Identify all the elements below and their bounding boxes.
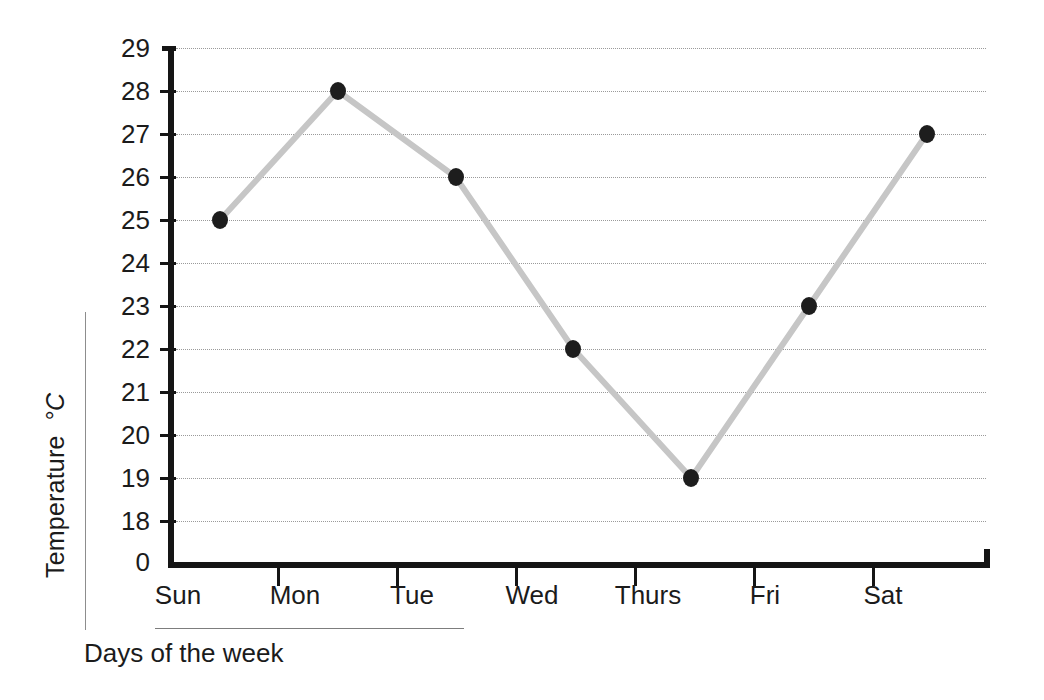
- gridline-25: [176, 220, 986, 221]
- y-tick-label-29: 29: [104, 35, 150, 61]
- y-tick-label-23: 23: [104, 293, 150, 319]
- x-tick-label-mon: Mon: [255, 582, 335, 608]
- data-point-sun: [212, 211, 228, 229]
- gridline-20: [176, 435, 986, 436]
- data-point-mon: [330, 82, 346, 100]
- y-axis-title-text: Temperature: [41, 435, 69, 578]
- gridline-26: [176, 177, 986, 178]
- x-axis-end-cap: [984, 549, 990, 568]
- y-tick-label-22: 22: [104, 336, 150, 362]
- gridline-21: [176, 392, 986, 393]
- y-tick-label-0: 0: [104, 549, 150, 575]
- x-tick-label-wed: Wed: [492, 582, 572, 608]
- x-axis-line: [168, 562, 990, 568]
- y-tick-label-28: 28: [104, 78, 150, 104]
- data-point-thurs: [683, 469, 699, 487]
- data-point-tue: [448, 168, 464, 186]
- chart-canvas: 29 28 27 26 25 24 23 22 21 20 19 18 0 Su…: [0, 0, 1044, 700]
- data-point-sat: [919, 125, 935, 143]
- x-tick-label-sat: Sat: [843, 582, 923, 608]
- gridline-28: [176, 91, 986, 92]
- gridline-27: [176, 134, 986, 135]
- data-point-fri: [801, 297, 817, 315]
- temperature-series-line: [220, 91, 927, 478]
- y-tick-label-26: 26: [104, 164, 150, 190]
- x-tick-label-fri: Fri: [725, 582, 805, 608]
- y-axis-title-unit: °C: [41, 393, 69, 421]
- y-tick-label-25: 25: [104, 207, 150, 233]
- gridline-22: [176, 349, 986, 350]
- y-axis-title: Temperature °C: [38, 348, 72, 578]
- y-tick-label-24: 24: [104, 250, 150, 276]
- data-point-wed: [565, 340, 581, 358]
- y-tick-label-20: 20: [104, 422, 150, 448]
- gridline-29: [176, 48, 986, 49]
- gridline-19: [176, 478, 986, 479]
- y-tick-label-18: 18: [104, 508, 150, 534]
- gridline-18: [176, 521, 986, 522]
- x-tick-label-sun: Sun: [138, 582, 218, 608]
- y-tick-label-19: 19: [104, 465, 150, 491]
- gridline-24: [176, 263, 986, 264]
- x-axis-title: Days of the week: [84, 640, 283, 666]
- y-tick-label-27: 27: [104, 121, 150, 147]
- x-tick-label-tue: Tue: [372, 582, 452, 608]
- gridline-23: [176, 306, 986, 307]
- x-tick-label-thurs: Thurs: [598, 582, 698, 608]
- y-axis-line: [168, 46, 174, 567]
- y-tick-label-21: 21: [104, 379, 150, 405]
- y-axis-title-rule: [85, 312, 86, 630]
- x-axis-title-rule: [155, 628, 464, 629]
